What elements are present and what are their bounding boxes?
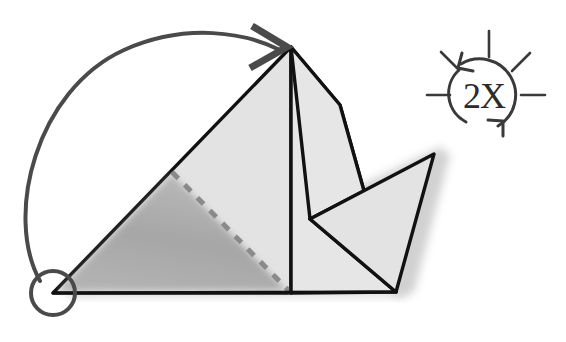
ray-upper-left-icon (441, 52, 459, 70)
repeat-count-label: 2X (463, 76, 506, 116)
ray-upper-right-icon (512, 53, 530, 71)
diagram-canvas: 2X (0, 0, 566, 342)
repeat-twice-badge: 2X (427, 31, 545, 136)
origami-diagram-root: 2X (0, 0, 566, 342)
base-edge (53, 292, 396, 293)
